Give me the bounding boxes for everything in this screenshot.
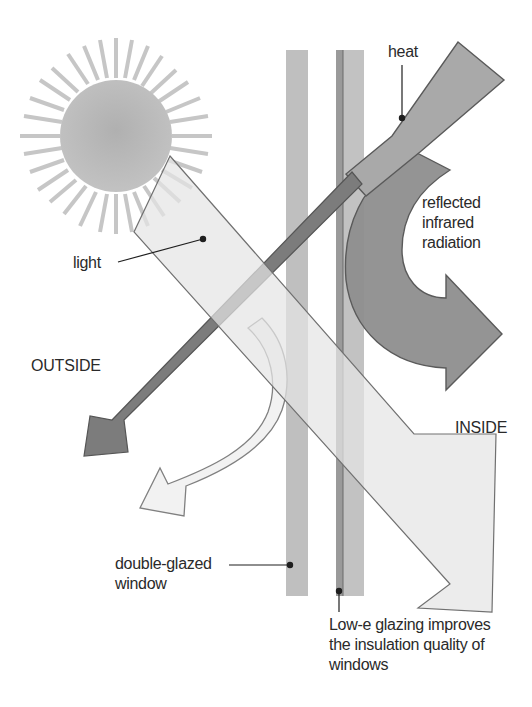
- diagram-canvas: [0, 0, 532, 707]
- double-glazed-window-label: double-glazed window: [115, 554, 212, 594]
- light-label: light: [73, 253, 101, 273]
- inside-label: INSIDE: [455, 418, 507, 438]
- low-e-coating: [336, 50, 343, 596]
- outside-label: OUTSIDE: [31, 356, 101, 376]
- sun-icon: [60, 80, 172, 192]
- low-e-glazing-label: Low-e glazing improves the insulation qu…: [329, 615, 490, 675]
- heat-label: heat: [388, 42, 418, 62]
- reflected-infrared-label: reflected infrared radiation: [422, 193, 481, 253]
